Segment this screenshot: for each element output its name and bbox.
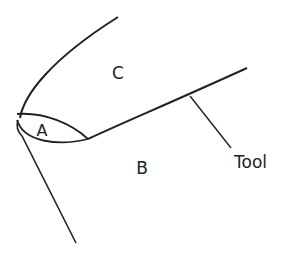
label-region-c: C — [112, 63, 124, 83]
label-tool: Tool — [233, 152, 267, 172]
tool-leader-line — [190, 96, 231, 148]
upper-boundary-curve — [20, 17, 118, 118]
label-region-a: A — [37, 121, 48, 140]
label-region-b: B — [136, 158, 148, 178]
cutting-diagram: C A B Tool — [0, 0, 284, 258]
